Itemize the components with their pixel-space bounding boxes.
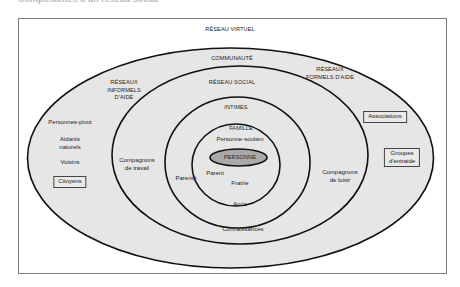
- label-personne-soutien: Personne-soutien: [216, 136, 263, 144]
- label-amis: Amis: [233, 201, 246, 209]
- label-aidants-naturels: Aidants naturels: [59, 136, 80, 151]
- label-personne: PERSONNE: [224, 154, 256, 162]
- label-connaissances: Connaissances: [222, 226, 263, 234]
- label-voisins: Voisins: [60, 159, 79, 167]
- label-famille: FAMILLE: [229, 125, 253, 133]
- box-groupes-entraide: Groupes d'entraide: [384, 148, 420, 167]
- label-fratrie: Fratrie: [231, 180, 248, 188]
- label-compagnons-travail: Compagnons de travail: [119, 157, 155, 172]
- label-personnes-pivot: Personnes-pivot: [48, 119, 91, 127]
- box-associations: Associations: [363, 111, 407, 123]
- label-parente: Parenté: [175, 175, 196, 183]
- label-reseaux-formels: RÉSEAUX FORMELS D'AIDE: [306, 66, 354, 81]
- label-reseaux-informels: RÉSEAUX INFORMELS D'AIDE: [107, 79, 141, 102]
- label-compagnons-loisir: Compagnons de loisir: [322, 169, 358, 184]
- label-parent: Parent: [206, 170, 224, 178]
- label-intimes: INTIMES: [224, 104, 247, 112]
- label-reseau-virtuel: RÉSEAU VIRTUEL: [205, 26, 254, 34]
- box-citoyens: Citoyens: [53, 176, 86, 188]
- label-communaute: COMMUNAUTÉ: [211, 55, 253, 63]
- label-reseau-social: RÉSEAU SOCIAL: [209, 79, 255, 87]
